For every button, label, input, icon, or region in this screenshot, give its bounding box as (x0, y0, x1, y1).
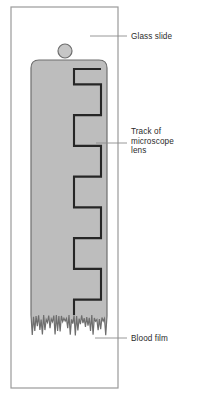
diagram-canvas: Glass slide Track ofmicroscopelens Blood… (0, 0, 199, 402)
blood-drop-circle (58, 44, 72, 58)
label-blood-film: Blood film (131, 334, 168, 343)
label-glass-slide: Glass slide (131, 32, 172, 41)
blood-film-shape (31, 60, 107, 335)
diagram-figure: Glass slide Track ofmicroscopelens Blood… (0, 0, 199, 402)
